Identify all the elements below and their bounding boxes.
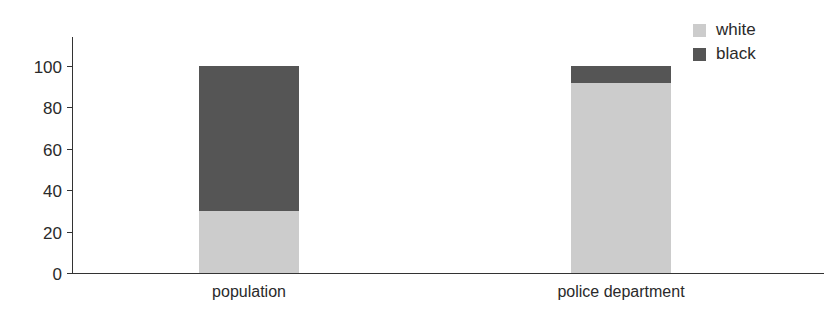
y-tick-label: 100	[34, 59, 62, 76]
y-tick-label: 60	[43, 141, 62, 158]
legend-swatch-white	[693, 24, 706, 37]
y-tick	[67, 232, 72, 233]
x-axis	[72, 273, 824, 274]
y-tick-label: 40	[43, 183, 62, 200]
y-tick	[67, 149, 72, 150]
y-tick-label: 80	[43, 100, 62, 117]
y-tick	[67, 190, 72, 191]
y-tick-label: 0	[53, 266, 62, 283]
y-tick-label: 20	[43, 224, 62, 241]
bar-segment-white	[199, 211, 299, 273]
legend-label: white	[716, 20, 756, 40]
bar-segment-black	[571, 66, 671, 83]
y-tick	[67, 66, 72, 67]
x-category-label: population	[212, 283, 286, 301]
bar-segment-black	[199, 66, 299, 211]
x-category-label: police department	[557, 283, 684, 301]
bar-segment-white	[571, 83, 671, 273]
y-tick	[67, 107, 72, 108]
y-tick	[67, 273, 72, 274]
legend-item-black: black	[693, 43, 756, 65]
y-axis	[72, 37, 73, 274]
legend-item-white: white	[693, 19, 756, 41]
legend-label: black	[716, 44, 756, 64]
bar-population	[199, 66, 299, 273]
legend: white black	[693, 19, 756, 67]
bar-police-department	[571, 66, 671, 273]
legend-swatch-black	[693, 48, 706, 61]
stacked-bar-chart: 020406080100 populationpolice department…	[0, 0, 834, 310]
